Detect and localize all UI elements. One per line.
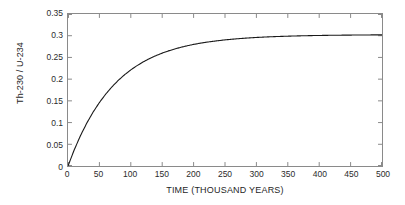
y-tick-label: 0 [58,163,63,172]
y-tick-label: 0.25 [46,53,63,62]
y-tick-label: 0.2 [51,75,63,84]
data-series-line [68,35,382,166]
plot-svg [68,14,382,166]
x-tick-label: 50 [94,170,103,179]
x-tick-label: 200 [186,170,200,179]
x-tick-label: 100 [123,170,137,179]
x-tick-label: 450 [344,170,358,179]
y-tick-label: 0.35 [46,9,63,18]
y-tick-label: 0.05 [46,141,63,150]
x-tick-label: 0 [65,170,70,179]
x-tick-label: 400 [313,170,327,179]
x-tick-label: 250 [218,170,232,179]
y-axis-title: Th-230 / U-234 [15,0,25,150]
x-tick-label: 300 [250,170,264,179]
x-axis-title: TIME (THOUSAND YEARS) [67,185,383,195]
y-tick-label: 0.15 [46,97,63,106]
y-tick-label: 0.1 [51,119,63,128]
x-tick-label: 350 [281,170,295,179]
axis-tick-marks [68,14,382,166]
x-tick-label: 500 [376,170,390,179]
plot-area [67,13,383,167]
x-tick-label: 150 [155,170,169,179]
chart-figure: 00.050.10.150.20.250.30.35 0501001502002… [0,0,405,205]
y-tick-label: 0.3 [51,31,63,40]
y-axis-tick-labels: 00.050.10.150.20.250.30.35 [36,13,63,167]
x-axis-tick-labels: 050100150200250300350400450500 [67,170,383,182]
